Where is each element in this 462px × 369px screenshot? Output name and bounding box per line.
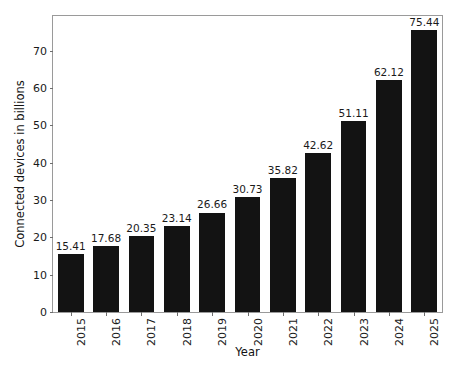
- y-tick-mark: [50, 275, 54, 276]
- x-axis-label: Year: [52, 345, 443, 359]
- bar: [376, 80, 402, 312]
- y-tick-label: 0: [40, 307, 47, 318]
- y-tick-label: 40: [33, 157, 47, 168]
- x-tick-mark: [354, 312, 355, 316]
- bar: [270, 178, 296, 312]
- bar-value-label: 62.12: [364, 67, 413, 78]
- x-tick-label: 2016: [111, 318, 122, 346]
- y-tick-label: 50: [33, 120, 47, 131]
- bar-value-label: 26.66: [187, 199, 236, 210]
- x-tick-mark: [248, 312, 249, 316]
- bar-value-label: 35.82: [258, 165, 307, 176]
- x-tick-mark: [141, 312, 142, 316]
- x-tick-mark: [283, 312, 284, 316]
- x-tick-label: 2023: [359, 318, 370, 346]
- x-tick-label: 2022: [323, 318, 334, 346]
- bar: [164, 226, 190, 312]
- bar: [341, 121, 367, 312]
- x-tick-mark: [389, 312, 390, 316]
- x-tick-mark: [71, 312, 72, 316]
- bar-value-label: 51.11: [329, 108, 378, 119]
- y-tick-mark: [50, 200, 54, 201]
- bar-value-label: 20.35: [117, 223, 166, 234]
- y-tick-mark: [50, 312, 54, 313]
- bar: [235, 197, 261, 312]
- x-tick-label: 2015: [76, 318, 87, 346]
- bar: [129, 236, 155, 312]
- bar: [58, 254, 84, 312]
- y-tick-label: 70: [33, 45, 47, 56]
- x-tick-label: 2025: [429, 318, 440, 346]
- x-tick-mark: [212, 312, 213, 316]
- bar: [411, 30, 437, 312]
- plot-area: 010203040506070 201520162017201820192020…: [52, 15, 443, 313]
- bar: [93, 246, 119, 312]
- x-tick-mark: [424, 312, 425, 316]
- y-tick-mark: [50, 163, 54, 164]
- x-tick-label: 2018: [182, 318, 193, 346]
- y-axis-label-wrapper: Connected devices in billions: [12, 15, 28, 313]
- y-tick-label: 30: [33, 195, 47, 206]
- y-tick-label: 10: [33, 269, 47, 280]
- x-tick-label: 2024: [394, 318, 405, 346]
- x-tick-label: 2019: [217, 318, 228, 346]
- y-tick-label: 60: [33, 83, 47, 94]
- y-tick-mark: [50, 237, 54, 238]
- bar-value-label: 23.14: [152, 213, 201, 224]
- x-tick-mark: [177, 312, 178, 316]
- bar-chart-figure: Connected devices in billions 0102030405…: [0, 0, 462, 369]
- y-tick-label: 20: [33, 232, 47, 243]
- bar-value-label: 17.68: [81, 233, 130, 244]
- y-tick-mark: [50, 125, 54, 126]
- bar-value-label: 30.73: [223, 184, 272, 195]
- bar-value-label: 75.44: [400, 17, 449, 28]
- y-tick-mark: [50, 51, 54, 52]
- bar: [305, 153, 331, 312]
- y-axis-label: Connected devices in billions: [12, 15, 28, 313]
- bar: [199, 213, 225, 313]
- x-tick-label: 2021: [288, 318, 299, 346]
- y-tick-mark: [50, 88, 54, 89]
- bar-value-label: 42.62: [294, 140, 343, 151]
- x-tick-mark: [106, 312, 107, 316]
- x-tick-label: 2020: [253, 318, 264, 346]
- x-tick-mark: [318, 312, 319, 316]
- x-tick-label: 2017: [146, 318, 157, 346]
